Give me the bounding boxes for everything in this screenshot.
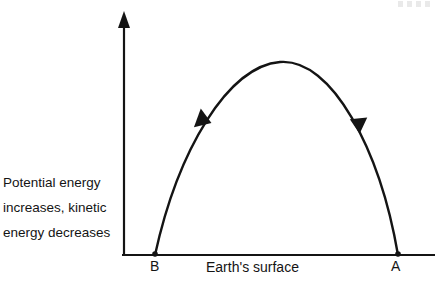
point-b-marker bbox=[152, 251, 158, 257]
energy-caption-line-2: increases, kinetic bbox=[3, 195, 125, 220]
point-b-label: B bbox=[150, 258, 159, 274]
point-a-label: A bbox=[391, 258, 400, 274]
diagram-canvas: Potential energy increases, kinetic ener… bbox=[0, 0, 439, 285]
energy-caption-line-3: energy decreases bbox=[3, 220, 125, 245]
earth-surface-label: Earth's surface bbox=[206, 259, 299, 275]
point-a-marker bbox=[395, 251, 401, 257]
energy-caption-line-1: Potential energy bbox=[3, 170, 125, 195]
trajectory-curve bbox=[155, 62, 398, 255]
vertical-axis-arrowhead bbox=[118, 11, 130, 28]
energy-caption: Potential energy increases, kinetic ener… bbox=[3, 170, 125, 245]
